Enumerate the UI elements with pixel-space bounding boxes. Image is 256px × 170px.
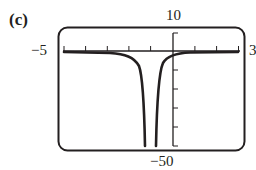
curve-left-branch — [64, 52, 145, 146]
graph-screen — [0, 0, 256, 170]
y-axis-ticks — [173, 33, 178, 146]
screen-frame — [59, 28, 245, 151]
x-axis-ticks — [64, 46, 239, 51]
curve-right-branch — [156, 52, 238, 146]
